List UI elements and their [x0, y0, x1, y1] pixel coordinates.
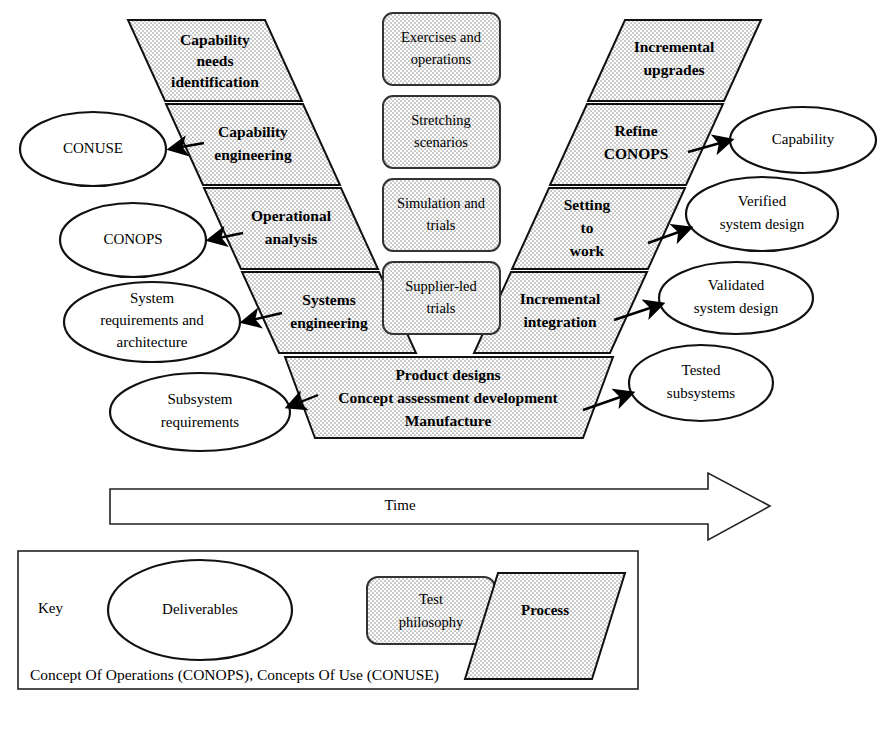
key-process-label: Process: [521, 602, 569, 618]
test-box-label-line: operations: [411, 51, 472, 67]
key-legend: Key Deliverables Test philosophy Process…: [18, 551, 638, 689]
deliverable-label-line: Capability: [772, 131, 835, 147]
stage-label-line: Incremental: [520, 290, 601, 307]
key-item-test-philosophy: Test philosophy: [367, 577, 495, 644]
test-box-label-line: scenarios: [414, 134, 468, 150]
stage-label-line: upgrades: [643, 61, 704, 78]
test-box-supplier-led-trials[interactable]: Supplier-led trials: [383, 262, 500, 334]
deliverable-label-line: Verified: [738, 193, 787, 209]
key-footnote: Concept Of Operations (CONOPS), Concepts…: [30, 666, 439, 684]
stage-label-line: Refine: [614, 122, 657, 139]
time-axis-label: Time: [384, 497, 415, 513]
key-heading: Key: [38, 600, 63, 616]
stage-capability-needs-identification[interactable]: Capability needs identification: [128, 20, 302, 101]
time-arrow: Time: [110, 473, 770, 540]
test-box-label-line: Supplier-led: [405, 278, 477, 294]
deliverable-conops[interactable]: CONOPS: [60, 203, 206, 277]
stage-refine-conops[interactable]: Refine CONOPS: [550, 104, 723, 185]
stage-label-line: Systems: [302, 291, 355, 308]
test-box-label-line: Stretching: [411, 112, 471, 128]
stage-operational-analysis[interactable]: Operational analysis: [204, 188, 378, 269]
test-box-stretching-scenarios[interactable]: Stretching scenarios: [383, 96, 500, 168]
stage-label-line: engineering: [290, 314, 368, 331]
stage-label-line: CONOPS: [604, 145, 669, 162]
deliverable-label-line: subsystems: [667, 385, 736, 401]
test-philosophy-group: Exercises and operations Stretching scen…: [383, 13, 500, 334]
test-box-exercises-and-operations[interactable]: Exercises and operations: [383, 13, 500, 85]
stage-label-line: Operational: [251, 207, 332, 224]
test-box-label-line: trials: [427, 217, 456, 233]
deliverable-label-line: CONOPS: [103, 231, 162, 247]
test-box-label-line: Simulation and: [397, 195, 486, 211]
stage-label-line: to: [581, 219, 594, 236]
deliverable-subsystem-requirements[interactable]: Subsystem requirements: [110, 373, 290, 451]
stage-label-line: Setting: [564, 196, 611, 213]
v-model-diagram: Capability needs identification Capabili…: [0, 0, 890, 730]
test-box-label-line: Exercises and: [401, 29, 482, 45]
deliverable-label-line: Subsystem: [167, 391, 232, 407]
deliverable-label-line: Validated: [708, 277, 765, 293]
key-item-deliverables: Deliverables: [108, 560, 292, 660]
stage-incremental-upgrades[interactable]: Incremental upgrades: [588, 20, 761, 101]
key-deliverables-label: Deliverables: [162, 601, 238, 617]
deliverable-validated-system-design[interactable]: Validated system design: [659, 262, 813, 334]
stage-label-line: work: [570, 242, 605, 259]
band-label-line: Concept assessment development: [338, 389, 558, 406]
stage-label-line: integration: [523, 313, 597, 330]
deliverable-label-line: requirements: [161, 414, 239, 430]
deliverable-system-requirements-and-architecture[interactable]: System requirements and architecture: [64, 282, 240, 362]
deliverable-capability[interactable]: Capability: [730, 107, 876, 173]
deliverable-label-line: requirements and: [100, 312, 204, 328]
stage-label-line: analysis: [265, 230, 318, 247]
stage-label-line: engineering: [214, 146, 292, 163]
stage-label-line: identification: [171, 73, 259, 90]
stage-label-line: Incremental: [634, 38, 715, 55]
deliverable-label-line: system design: [694, 300, 779, 316]
deliverable-label-line: Tested: [682, 362, 721, 378]
diagram-canvas: Capability needs identification Capabili…: [0, 0, 890, 730]
key-test-philosophy-label-line: philosophy: [399, 614, 464, 630]
test-box-label-line: trials: [427, 300, 456, 316]
deliverable-conuse[interactable]: CONUSE: [20, 112, 166, 186]
bottom-band-product-designs[interactable]: Product designs Concept assessment devel…: [285, 357, 613, 438]
stage-label-line: needs: [196, 52, 233, 69]
deliverable-verified-system-design[interactable]: Verified system design: [686, 177, 838, 251]
test-box-simulation-and-trials[interactable]: Simulation and trials: [383, 179, 500, 251]
band-label-line: Manufacture: [405, 412, 492, 429]
deliverable-tested-subsystems[interactable]: Tested subsystems: [629, 345, 773, 421]
deliverable-label-line: CONUSE: [63, 140, 123, 156]
deliverable-label-line: System: [130, 290, 175, 306]
stage-label-line: Capability: [180, 31, 250, 48]
stage-label-line: Capability: [218, 123, 288, 140]
key-test-philosophy-label-line: Test: [419, 591, 443, 607]
stage-setting-to-work[interactable]: Setting to work: [512, 188, 685, 269]
deliverable-label-line: architecture: [117, 334, 188, 350]
band-label-line: Product designs: [395, 366, 500, 383]
deliverable-label-line: system design: [720, 216, 805, 232]
